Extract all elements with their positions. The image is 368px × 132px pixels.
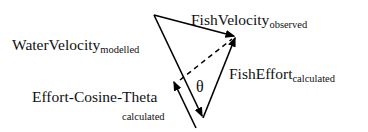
- projection-dashed-line: [180, 39, 232, 80]
- effort-cosine-theta-sub: calculated: [122, 111, 165, 122]
- vector-diagram: WaterVelocitymodelled FishVelocityobserv…: [0, 0, 368, 132]
- fish-effort-main: FishEffort: [229, 65, 293, 82]
- water-velocity-main: WaterVelocity: [12, 36, 101, 53]
- effort-cosine-theta-arrow: [174, 82, 196, 128]
- water-velocity-arrow: [154, 15, 202, 116]
- water-velocity-label: WaterVelocitymodelled: [12, 36, 140, 55]
- fish-velocity-label: FishVelocityobserved: [191, 11, 308, 30]
- fish-effort-label: FishEffortcalculated: [229, 65, 336, 84]
- theta-angle-label: θ: [196, 78, 204, 95]
- water-velocity-sub: modelled: [100, 44, 140, 55]
- effort-cosine-theta-label: Effort-Cosine-Theta: [32, 88, 158, 105]
- fish-velocity-sub: observed: [269, 19, 308, 30]
- fish-effort-sub: calculated: [292, 73, 335, 84]
- fish-velocity-main: FishVelocity: [191, 11, 270, 28]
